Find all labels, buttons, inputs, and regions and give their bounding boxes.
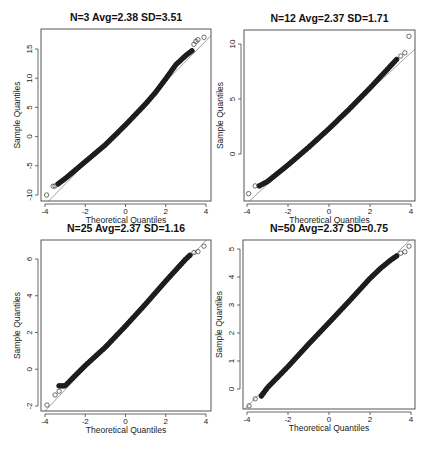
y-tick-label: 4 <box>25 293 34 298</box>
y-tick-label: 5 <box>25 105 34 110</box>
y-tick-label: 10 <box>25 73 34 82</box>
y-tick-label: 6 <box>25 256 34 261</box>
y-tick-label: 3 <box>227 302 236 307</box>
outlier-point <box>202 244 206 248</box>
y-axis-label: Sample Quantiles <box>12 292 22 359</box>
y-tick-label: 5 <box>227 246 236 251</box>
y-tick-label: -5 <box>25 162 34 170</box>
x-tick-label: 0 <box>327 207 332 216</box>
data-points <box>44 35 206 197</box>
y-axis: 0510 <box>228 39 241 156</box>
outlier-point <box>57 389 61 393</box>
outlier-point <box>403 51 407 55</box>
outlier-point <box>399 54 403 58</box>
outlier-point <box>192 250 196 254</box>
x-axis: -4-2024 <box>243 412 413 424</box>
y-tick-label: 0 <box>25 134 34 139</box>
panel-title: N=3 Avg=2.38 SD=3.51 <box>70 11 182 23</box>
x-tick-label: -2 <box>284 207 292 216</box>
y-tick-label: 15 <box>25 44 34 53</box>
plot-area: -4-2024012345 <box>227 218 432 428</box>
y-axis: 012345 <box>227 246 240 391</box>
y-axis: -10-5051015 <box>25 44 38 201</box>
panel-title: N=25 Avg=2.37 SD=1.16 <box>67 222 185 234</box>
panel-n50: N=50 Avg=2.37 SD=0.75 Theoretical Quanti… <box>214 218 432 433</box>
x-tick-label: -2 <box>82 417 90 426</box>
outlier-point <box>202 35 206 39</box>
y-tick-label: 5 <box>228 96 237 101</box>
y-tick-label: -10 <box>25 189 34 201</box>
x-tick-label: -4 <box>243 415 251 424</box>
x-tick-label: 4 <box>409 207 414 216</box>
x-axis: -4-2024 <box>41 414 208 426</box>
x-tick-label: 4 <box>204 207 209 216</box>
x-tick-label: -2 <box>82 207 90 216</box>
x-tick-label: 0 <box>123 207 128 216</box>
y-tick-label: 0 <box>25 366 34 371</box>
y-tick-label: 10 <box>228 39 237 48</box>
y-axis-label: Sample Quantiles <box>215 82 225 149</box>
x-tick-label: 4 <box>204 417 209 426</box>
data-points <box>246 34 411 196</box>
panel-title: N=12 Avg=2.37 SD=1.71 <box>270 12 388 24</box>
x-axis: -4-2024 <box>243 204 413 216</box>
y-axis: -20246 <box>25 256 38 409</box>
y-axis-label: Sample Quantiles <box>214 291 224 358</box>
panel-n25: N=25 Avg=2.37 SD=1.16 Theoretical Quanti… <box>12 219 226 435</box>
x-tick-label: -4 <box>41 207 49 216</box>
outlier-point <box>246 191 250 195</box>
outlier-point <box>407 244 411 248</box>
y-axis-label: Sample Quantiles <box>12 81 22 148</box>
outlier-point <box>45 403 49 407</box>
x-tick-label: -4 <box>243 207 251 216</box>
plot-area: -4-2024-10-5051015 <box>25 20 226 225</box>
x-axis-label: Theoretical Quantiles <box>86 425 166 435</box>
x-axis-label: Theoretical Quantiles <box>289 423 369 433</box>
panel-title: N=50 Avg=2.37 SD=0.75 <box>270 222 388 234</box>
plot-area: -4-20240510 <box>227 30 432 222</box>
data-points <box>247 244 411 408</box>
x-tick-label: 2 <box>164 417 169 426</box>
outlier-point <box>53 393 57 397</box>
x-tick-label: 0 <box>123 417 128 426</box>
x-tick-label: -2 <box>284 415 292 424</box>
y-tick-label: 2 <box>227 330 236 335</box>
x-tick-label: -4 <box>41 417 49 426</box>
data-points <box>45 244 206 407</box>
x-tick-label: 2 <box>368 207 373 216</box>
x-tick-label: 2 <box>164 207 169 216</box>
panel-n12: N=12 Avg=2.37 SD=1.71 Theoretical Quanti… <box>215 12 432 225</box>
x-tick-label: 0 <box>327 415 332 424</box>
qq-plot-figure: N=3 Avg=2.38 SD=3.51 Theoretical Quantil… <box>0 0 436 451</box>
outlier-point <box>44 193 48 197</box>
x-tick-label: 2 <box>368 415 373 424</box>
y-tick-label: -2 <box>25 402 34 410</box>
y-tick-label: 4 <box>227 274 236 279</box>
x-tick-label: 4 <box>409 415 414 424</box>
outlier-point <box>399 251 403 255</box>
outlier-point <box>407 34 411 38</box>
panel-n3: N=3 Avg=2.38 SD=3.51 Theoretical Quantil… <box>12 11 226 225</box>
outlier-point <box>196 249 200 253</box>
outlier-point <box>403 250 407 254</box>
x-axis: -4-2024 <box>41 204 208 216</box>
y-tick-label: 2 <box>25 330 34 335</box>
plot-frame <box>244 30 415 201</box>
y-tick-label: 0 <box>228 151 237 156</box>
plot-area: -4-2024-20246 <box>25 219 226 432</box>
y-tick-label: 0 <box>227 386 236 391</box>
y-tick-label: 1 <box>227 358 236 363</box>
